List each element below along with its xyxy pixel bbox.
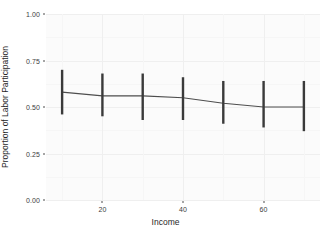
x-tick-mark bbox=[183, 201, 184, 203]
x-tick-mark bbox=[102, 201, 103, 203]
chart-canvas: 0.000.250.500.751.00 204060 Income Propo… bbox=[0, 0, 331, 237]
x-tick-label: 20 bbox=[98, 206, 106, 213]
chart-geometry bbox=[0, 0, 331, 237]
x-tick-label: 40 bbox=[179, 206, 187, 213]
y-tick-mark bbox=[43, 14, 45, 15]
y-tick-label: 0.75 bbox=[10, 57, 40, 64]
y-tick-label: 0.50 bbox=[10, 104, 40, 111]
y-tick-mark bbox=[43, 60, 45, 61]
y-tick-mark bbox=[43, 107, 45, 108]
y-tick-mark bbox=[43, 200, 45, 201]
x-axis-title: Income bbox=[0, 217, 331, 227]
y-tick-mark bbox=[43, 153, 45, 154]
y-tick-label: 0.25 bbox=[10, 150, 40, 157]
x-tick-mark bbox=[263, 201, 264, 203]
y-axis-title: Proportion of Labor Participation bbox=[0, 46, 10, 168]
y-tick-label: 1.00 bbox=[10, 11, 40, 18]
y-tick-label: 0.00 bbox=[10, 197, 40, 204]
x-tick-label: 60 bbox=[260, 206, 268, 213]
